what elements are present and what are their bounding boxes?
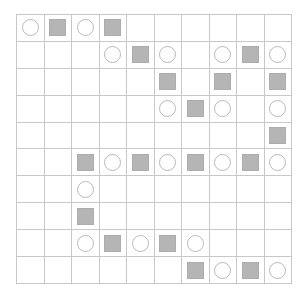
board-cell[interactable] — [155, 230, 183, 257]
board-cell[interactable] — [45, 176, 73, 203]
board-cell[interactable] — [17, 123, 45, 150]
board-cell[interactable] — [45, 203, 73, 230]
board-cell[interactable] — [72, 203, 100, 230]
board-cell[interactable] — [237, 176, 265, 203]
board-cell[interactable] — [127, 42, 155, 69]
board-cell[interactable] — [265, 42, 293, 69]
board-cell[interactable] — [182, 230, 210, 257]
board-cell[interactable] — [155, 96, 183, 123]
board-cell[interactable] — [237, 96, 265, 123]
board-cell[interactable] — [17, 15, 45, 42]
board-cell[interactable] — [72, 15, 100, 42]
board-cell[interactable] — [237, 123, 265, 150]
board-cell[interactable] — [45, 149, 73, 176]
board-cell[interactable] — [210, 257, 238, 284]
board-cell[interactable] — [237, 15, 265, 42]
board-cell[interactable] — [155, 123, 183, 150]
board-cell[interactable] — [182, 203, 210, 230]
board-cell[interactable] — [155, 69, 183, 96]
board-cell[interactable] — [127, 69, 155, 96]
board-cell[interactable] — [265, 257, 293, 284]
board-cell[interactable] — [45, 257, 73, 284]
board-cell[interactable] — [100, 123, 128, 150]
board-cell[interactable] — [237, 230, 265, 257]
board-cell[interactable] — [210, 42, 238, 69]
board-cell[interactable] — [127, 257, 155, 284]
board-cell[interactable] — [17, 257, 45, 284]
board-cell[interactable] — [17, 96, 45, 123]
board-cell[interactable] — [210, 123, 238, 150]
board-cell[interactable] — [155, 203, 183, 230]
board-cell[interactable] — [210, 176, 238, 203]
board-cell[interactable] — [17, 230, 45, 257]
board-cell[interactable] — [127, 230, 155, 257]
board-cell[interactable] — [72, 96, 100, 123]
board-cell[interactable] — [182, 257, 210, 284]
board-cell[interactable] — [237, 42, 265, 69]
board-cell[interactable] — [45, 123, 73, 150]
board-cell[interactable] — [210, 203, 238, 230]
board-cell[interactable] — [155, 176, 183, 203]
board-cell[interactable] — [127, 15, 155, 42]
board-cell[interactable] — [237, 69, 265, 96]
board-cell[interactable] — [72, 123, 100, 150]
board-cell[interactable] — [100, 257, 128, 284]
board-cell[interactable] — [127, 203, 155, 230]
board-cell[interactable] — [127, 96, 155, 123]
board-cell[interactable] — [100, 203, 128, 230]
board-cell[interactable] — [210, 149, 238, 176]
board-cell[interactable] — [100, 15, 128, 42]
board-cell[interactable] — [237, 149, 265, 176]
board-cell[interactable] — [210, 69, 238, 96]
board-cell[interactable] — [45, 230, 73, 257]
board-cell[interactable] — [155, 257, 183, 284]
board-cell[interactable] — [45, 69, 73, 96]
board-cell[interactable] — [182, 149, 210, 176]
board-cell[interactable] — [210, 96, 238, 123]
board-cell[interactable] — [155, 149, 183, 176]
board-cell[interactable] — [182, 69, 210, 96]
board-cell[interactable] — [100, 69, 128, 96]
board-cell[interactable] — [72, 69, 100, 96]
board-cell[interactable] — [72, 149, 100, 176]
board-cell[interactable] — [45, 42, 73, 69]
board-cell[interactable] — [237, 257, 265, 284]
board-cell[interactable] — [265, 123, 293, 150]
board-cell[interactable] — [265, 96, 293, 123]
board-cell[interactable] — [182, 123, 210, 150]
board-cell[interactable] — [17, 149, 45, 176]
board-cell[interactable] — [100, 42, 128, 69]
board-cell[interactable] — [265, 15, 293, 42]
game-board-grid[interactable] — [16, 14, 292, 284]
board-cell[interactable] — [100, 149, 128, 176]
board-cell[interactable] — [17, 42, 45, 69]
board-cell[interactable] — [72, 257, 100, 284]
board-cell[interactable] — [182, 42, 210, 69]
board-cell[interactable] — [265, 69, 293, 96]
board-cell[interactable] — [182, 96, 210, 123]
board-cell[interactable] — [17, 69, 45, 96]
board-cell[interactable] — [127, 149, 155, 176]
board-cell[interactable] — [155, 15, 183, 42]
board-cell[interactable] — [100, 230, 128, 257]
board-cell[interactable] — [265, 203, 293, 230]
board-cell[interactable] — [17, 176, 45, 203]
board-cell[interactable] — [182, 176, 210, 203]
board-cell[interactable] — [45, 15, 73, 42]
board-cell[interactable] — [45, 96, 73, 123]
board-cell[interactable] — [72, 176, 100, 203]
board-cell[interactable] — [210, 230, 238, 257]
board-cell[interactable] — [237, 203, 265, 230]
board-cell[interactable] — [265, 176, 293, 203]
board-cell[interactable] — [127, 176, 155, 203]
board-cell[interactable] — [100, 96, 128, 123]
board-cell[interactable] — [210, 15, 238, 42]
board-cell[interactable] — [155, 42, 183, 69]
board-cell[interactable] — [265, 149, 293, 176]
board-cell[interactable] — [127, 123, 155, 150]
board-cell[interactable] — [182, 15, 210, 42]
board-cell[interactable] — [100, 176, 128, 203]
board-cell[interactable] — [72, 230, 100, 257]
board-cell[interactable] — [265, 230, 293, 257]
board-cell[interactable] — [72, 42, 100, 69]
